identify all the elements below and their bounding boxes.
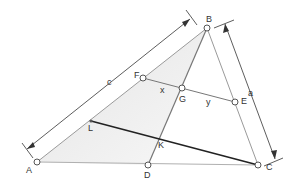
label-F: F [134,70,140,80]
point-A [34,159,40,165]
diagram-svg: A B C D E F G K L c a x y [0,0,298,190]
label-D: D [144,170,151,180]
label-y: y [206,97,211,107]
label-C: C [266,162,273,172]
label-E: E [241,96,247,106]
label-x: x [160,85,165,95]
label-A: A [26,165,32,175]
point-G [179,85,185,91]
label-a: a [248,88,253,98]
label-K: K [158,140,164,150]
point-D [145,162,151,168]
point-C [255,162,261,168]
label-B: B [206,14,212,24]
label-G: G [179,94,186,104]
point-F [140,75,146,81]
triangle-diagram: A B C D E F G K L c a x y [0,0,298,190]
label-c: c [107,77,112,87]
label-L: L [88,123,93,133]
point-E [232,99,238,105]
point-B [204,25,210,31]
